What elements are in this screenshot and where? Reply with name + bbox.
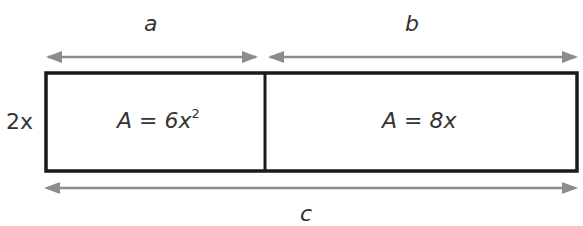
dimension-arrow-c bbox=[44, 182, 578, 194]
label-a: a bbox=[144, 13, 157, 35]
area-label-left: A = 6x2 bbox=[117, 108, 200, 133]
label-b: b bbox=[405, 13, 419, 35]
label-height: 2x bbox=[6, 111, 33, 133]
area-expression-right: A = 8x bbox=[382, 108, 457, 133]
area-label-right: A = 8x bbox=[382, 108, 457, 133]
area-exponent-left: 2 bbox=[192, 106, 200, 121]
rectangle-diagram bbox=[0, 0, 583, 226]
dimension-arrow-b bbox=[268, 51, 578, 63]
dimension-arrow-a bbox=[46, 51, 258, 63]
label-c: c bbox=[300, 203, 312, 225]
area-expression-left: A = 6x bbox=[117, 108, 192, 133]
